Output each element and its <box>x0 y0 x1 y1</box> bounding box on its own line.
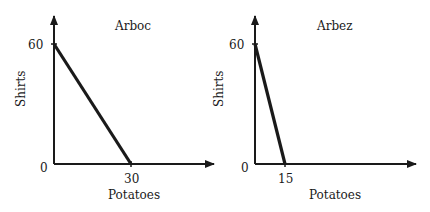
y-axis-label: Shirts <box>14 70 28 107</box>
origin-label: 0 <box>241 161 249 175</box>
y-tick-label-60: 60 <box>229 38 244 52</box>
x-axis-label: Potatoes <box>108 188 160 202</box>
ppf-line <box>255 44 285 164</box>
chart-arbez: Arbez 60 0 15 Potatoes Shirts <box>212 16 416 202</box>
y-axis-label: Shirts <box>212 70 226 107</box>
x-tick-label-30: 30 <box>124 172 139 186</box>
x-axis-label: Potatoes <box>309 188 361 202</box>
y-tick-label-60: 60 <box>28 38 43 52</box>
chart-title: Arbez <box>316 19 353 33</box>
chart-arboc: Arboc 60 0 30 Potatoes Shirts <box>14 16 214 202</box>
ppf-line <box>54 44 131 164</box>
chart-title: Arboc <box>114 19 151 33</box>
x-tick-label-15: 15 <box>278 172 293 186</box>
origin-label: 0 <box>40 161 48 175</box>
